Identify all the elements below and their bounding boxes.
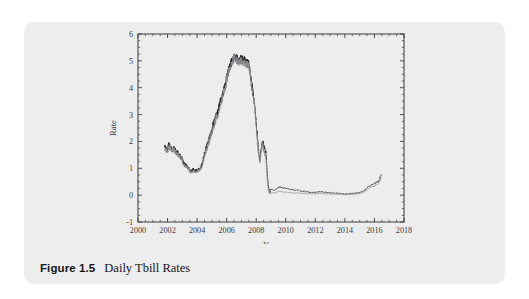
y-tick-label: 3 bbox=[129, 111, 133, 120]
y-tick-label: 0 bbox=[129, 191, 133, 200]
figure-number-label: Figure 1.5 bbox=[40, 262, 95, 274]
x-tick-label: 2012 bbox=[307, 226, 323, 235]
series-line bbox=[165, 54, 382, 195]
x-tick-label: 2000 bbox=[130, 226, 146, 235]
y-tick-label: 2 bbox=[129, 137, 133, 146]
plot-frame bbox=[138, 34, 404, 222]
chart-plot-area: 2000200220042006200820102012201420162018… bbox=[24, 22, 505, 244]
y-tick-label: 6 bbox=[129, 30, 133, 39]
x-tick-label: 2014 bbox=[337, 226, 353, 235]
x-tick-label: 2004 bbox=[189, 226, 205, 235]
x-tick-label: 2018 bbox=[396, 226, 412, 235]
y-tick-label: 1 bbox=[129, 164, 133, 173]
series-line bbox=[165, 54, 382, 194]
x-tick-label: 2010 bbox=[278, 226, 294, 235]
x-axis-title: Year bbox=[263, 240, 279, 244]
x-tick-label: 2002 bbox=[159, 226, 175, 235]
y-tick-label: 4 bbox=[129, 84, 133, 93]
x-tick-label: 2006 bbox=[218, 226, 234, 235]
figure-card: 2000200220042006200820102012201420162018… bbox=[24, 22, 505, 284]
y-axis-title: Rate bbox=[108, 120, 118, 136]
figure-caption: Figure 1.5Daily Tbill Rates bbox=[40, 256, 490, 278]
figure-title-label: Daily Tbill Rates bbox=[104, 261, 190, 275]
x-tick-label: 2008 bbox=[248, 226, 264, 235]
y-tick-label: -1 bbox=[126, 218, 133, 227]
tbill-rates-line-chart: 2000200220042006200820102012201420162018… bbox=[24, 22, 505, 244]
x-tick-label: 2016 bbox=[366, 226, 382, 235]
y-tick-label: 5 bbox=[129, 57, 133, 66]
